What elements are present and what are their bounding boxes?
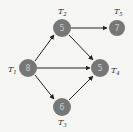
label-t4: T4: [111, 66, 120, 76]
node-value: 5: [59, 24, 64, 33]
node-t4: 5: [91, 59, 109, 77]
node-value: 7: [114, 24, 119, 33]
edge-t2-t4: [69, 35, 93, 60]
edge-t1-t3: [35, 75, 54, 99]
edge-t3-t4: [69, 76, 93, 100]
node-t1: 8: [19, 59, 37, 77]
edge-t1-t2: [35, 35, 54, 61]
label-t5: T5: [114, 7, 123, 17]
label-t3: T3: [58, 118, 67, 128]
node-t3: 6: [53, 98, 71, 116]
label-t1: T1: [8, 65, 17, 75]
node-value: 6: [59, 103, 64, 112]
label-t2: T2: [58, 7, 67, 17]
node-t2: 5: [53, 19, 71, 37]
node-value: 8: [25, 64, 30, 73]
task-graph: 8 5 6 5 7 T1 T2 T3 T4 T5: [0, 0, 133, 132]
node-t5: 7: [109, 20, 125, 36]
node-value: 5: [97, 64, 102, 73]
